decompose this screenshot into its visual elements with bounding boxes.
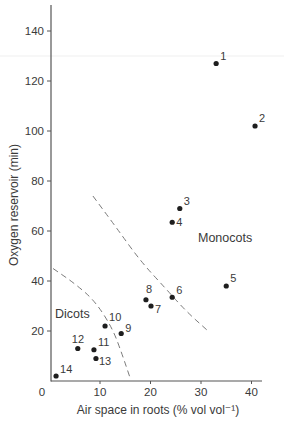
data-point-4: 4 xyxy=(170,216,183,228)
point-marker xyxy=(170,220,175,225)
y-tick-label: 140 xyxy=(25,25,44,37)
y-tick-label: 40 xyxy=(31,275,44,287)
y-tick-label: 60 xyxy=(31,225,44,237)
point-marker xyxy=(224,283,229,288)
x-axis-title: Air space in roots (% vol vol⁻¹) xyxy=(77,403,239,417)
point-marker xyxy=(170,295,175,300)
point-marker xyxy=(93,356,98,361)
point-marker xyxy=(177,206,182,211)
point-marker xyxy=(91,347,96,352)
point-marker xyxy=(102,323,107,328)
data-points: 1234567891011121314 xyxy=(53,50,265,379)
point-label: 1 xyxy=(220,50,226,62)
y-tick-label: 100 xyxy=(25,125,44,137)
data-point-1: 1 xyxy=(214,50,227,67)
point-marker xyxy=(53,373,58,378)
y-tick-label: 20 xyxy=(31,325,44,337)
axes: 20406080100120140010203040 xyxy=(25,5,262,398)
point-marker xyxy=(252,123,257,128)
dicots-label: Dicots xyxy=(55,307,90,321)
point-label: 5 xyxy=(230,272,236,284)
point-label: 2 xyxy=(259,112,265,124)
point-label: 13 xyxy=(99,355,111,367)
y-axis-title: Oxygen reservoir (min) xyxy=(7,144,21,266)
point-label: 4 xyxy=(176,216,182,228)
data-point-3: 3 xyxy=(177,195,190,212)
y-tick-label: 80 xyxy=(31,175,44,187)
x-tick-label: 20 xyxy=(144,386,157,398)
data-point-13: 13 xyxy=(93,355,111,367)
x-tick-label: 10 xyxy=(94,386,107,398)
point-marker xyxy=(214,61,219,66)
data-point-8: 8 xyxy=(143,283,152,303)
point-marker xyxy=(148,303,153,308)
data-point-14: 14 xyxy=(53,363,72,379)
point-label: 3 xyxy=(184,195,190,207)
monocots-label: Monocots xyxy=(198,231,252,245)
data-point-2: 2 xyxy=(252,112,265,129)
point-label: 9 xyxy=(125,322,131,334)
x-tick-label: 30 xyxy=(195,386,208,398)
x-tick-label: 0 xyxy=(39,386,45,398)
point-label: 10 xyxy=(109,311,121,323)
data-point-6: 6 xyxy=(170,284,183,300)
point-label: 7 xyxy=(155,303,161,315)
point-label: 14 xyxy=(60,363,72,375)
point-label: 11 xyxy=(98,336,109,348)
point-label: 8 xyxy=(146,283,152,295)
x-tick-label: 40 xyxy=(245,386,258,398)
data-point-9: 9 xyxy=(119,322,132,337)
data-point-12: 12 xyxy=(72,333,84,352)
point-marker xyxy=(119,331,124,336)
scatter-chart: 20406080100120140010203040 1234567891011… xyxy=(0,0,284,422)
data-point-5: 5 xyxy=(224,272,237,289)
point-marker xyxy=(143,297,148,302)
y-tick-label: 120 xyxy=(25,75,44,87)
data-point-11: 11 xyxy=(91,336,109,353)
point-label: 6 xyxy=(176,284,182,296)
data-point-10: 10 xyxy=(102,311,121,329)
point-label: 12 xyxy=(72,333,84,345)
point-marker xyxy=(75,346,80,351)
data-point-7: 7 xyxy=(148,303,161,315)
